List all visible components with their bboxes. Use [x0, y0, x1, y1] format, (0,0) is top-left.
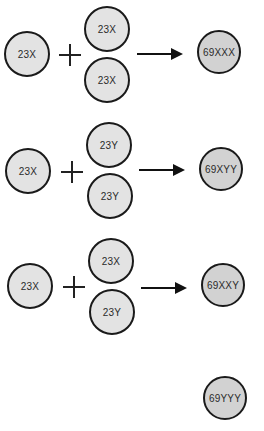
- result-circle-extra: 69YYY: [203, 376, 247, 420]
- result-label: 69XXX: [203, 47, 235, 58]
- sperm-top-circle-row1: 23X: [84, 6, 130, 52]
- sperm-bottom-circle-row3: 23Y: [89, 289, 135, 335]
- sperm-label: 23X: [102, 256, 120, 267]
- result-circle-row2: 69XYY: [199, 147, 243, 191]
- result-label: 69XXY: [207, 280, 239, 291]
- result-circle-row1: 69XXX: [197, 30, 241, 74]
- egg-label: 23X: [18, 49, 36, 60]
- result-circle-row3: 69XXY: [201, 263, 245, 307]
- egg-circle-row2: 23X: [5, 148, 51, 194]
- arrow-right-icon: [139, 169, 183, 171]
- result-label: 69XYY: [205, 164, 237, 175]
- sperm-top-circle-row3: 23X: [88, 238, 134, 284]
- sperm-label: 23Y: [101, 191, 119, 202]
- egg-circle-row1: 23X: [4, 31, 50, 77]
- plus-icon: [59, 44, 81, 66]
- sperm-bottom-circle-row1: 23X: [84, 57, 130, 103]
- result-label: 69YYY: [209, 393, 241, 404]
- plus-icon: [63, 276, 85, 298]
- egg-label: 23X: [21, 281, 39, 292]
- sperm-bottom-circle-row2: 23Y: [87, 173, 133, 219]
- egg-label: 23X: [19, 166, 37, 177]
- sperm-label: 23X: [98, 75, 116, 86]
- egg-circle-row3: 23X: [7, 263, 53, 309]
- sperm-top-circle-row2: 23Y: [86, 122, 132, 168]
- sperm-label: 23Y: [103, 307, 121, 318]
- plus-icon: [61, 161, 83, 183]
- sperm-label: 23Y: [100, 140, 118, 151]
- sperm-label: 23X: [98, 24, 116, 35]
- arrow-right-icon: [137, 53, 181, 55]
- arrow-right-icon: [141, 287, 185, 289]
